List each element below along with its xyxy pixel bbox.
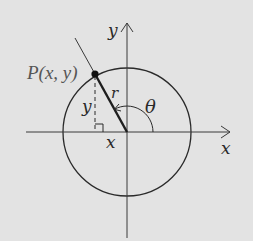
y-leg-label: y [81,96,92,116]
x-axis-label: x [221,138,231,158]
diagram-canvas: P(x, y) y x r θ x y [0,0,253,241]
y-axis-label: y [107,20,118,40]
theta-label: θ [145,96,156,117]
point-p-label: P(x, y) [26,62,78,84]
radius-segment [95,74,127,132]
x-leg-label: x [106,132,116,152]
point-p-dot [91,70,98,77]
terminal-ray [75,38,95,74]
radius-label: r [111,84,119,102]
unit-circle-diagram: P(x, y) y x r θ x y [0,0,253,241]
right-angle-icon [95,124,103,132]
